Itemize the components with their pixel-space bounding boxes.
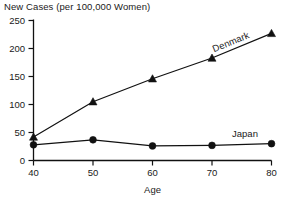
- x-axis-title: Age: [144, 184, 161, 195]
- y-tick-label-50: 50: [14, 127, 25, 138]
- data-point-marker: [149, 143, 156, 150]
- data-point-marker: [30, 141, 37, 148]
- data-point-marker: [208, 54, 216, 61]
- chart-plot: 0 50 100 150 200 250 40 50 60 70 80 Age: [0, 0, 284, 201]
- data-point-marker: [268, 140, 275, 147]
- x-tick-label-40: 40: [28, 167, 39, 178]
- x-tick-label-80: 80: [266, 167, 277, 178]
- y-tick-label-150: 150: [9, 71, 25, 82]
- series-line-denmark: [34, 33, 272, 137]
- x-tick-label-50: 50: [88, 167, 99, 178]
- x-axis-tick-labels: 40 50 60 70 80: [28, 167, 277, 178]
- data-point-marker: [30, 133, 38, 140]
- series-markers-denmark: [30, 29, 276, 140]
- data-point-marker: [268, 29, 276, 36]
- data-point-marker: [90, 136, 97, 143]
- data-point-marker: [89, 98, 97, 105]
- y-tick-label-100: 100: [9, 99, 25, 110]
- series-label-japan: Japan: [232, 128, 258, 139]
- chart-container: New Cases (per 100,000 Women) 0 50 100 1…: [0, 0, 284, 201]
- x-tick-label-60: 60: [147, 167, 158, 178]
- x-tick-label-70: 70: [207, 167, 218, 178]
- y-axis-tick-labels: 0 50 100 150 200 250: [9, 15, 25, 166]
- y-tick-label-250: 250: [9, 15, 25, 26]
- y-tick-label-200: 200: [9, 43, 25, 54]
- x-axis-ticks: [34, 161, 272, 166]
- data-point-marker: [209, 142, 216, 149]
- y-tick-label-0: 0: [20, 155, 25, 166]
